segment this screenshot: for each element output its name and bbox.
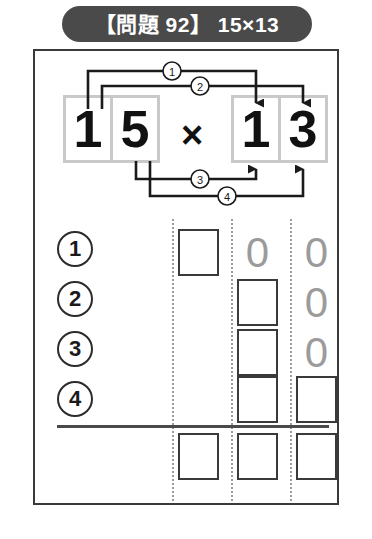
page-title: 【問題 92】 15×13 [95, 14, 280, 35]
row-marker-2-label: 2 [69, 288, 81, 310]
row-marker-3-label: 3 [69, 338, 81, 360]
column-divider-hundreds [172, 219, 174, 501]
row-marker-2: 2 [57, 281, 93, 317]
connector-line-2: 2 [102, 77, 303, 109]
connector-badge-2-label: 2 [197, 81, 203, 93]
ghost-zero-row3-col3: 0 [296, 329, 337, 376]
answer-box-row2-col2[interactable] [237, 279, 278, 326]
connector-badge-1-label: 1 [169, 66, 175, 78]
sum-box-col2[interactable] [237, 433, 278, 480]
answer-box-row4-col3[interactable] [296, 376, 337, 423]
connector-arrows: 1 2 3 4 [35, 51, 337, 216]
ghost-zero-row1-col3: 0 [296, 229, 337, 276]
sum-box-col1[interactable] [178, 433, 219, 480]
multiplication-expression-area: 1 5 × 1 3 [35, 51, 337, 216]
answer-grid: 1 2 3 4 0 0 0 0 [35, 219, 337, 505]
ghost-zero-row1-col2: 0 [237, 229, 278, 276]
column-divider-tens [231, 219, 233, 501]
answer-box-row1-col1[interactable] [178, 229, 219, 276]
answer-box-row4-col2[interactable] [237, 376, 278, 423]
row-marker-1: 1 [57, 231, 93, 267]
connector-line-4: 4 [150, 161, 303, 205]
connector-badge-3-label: 3 [197, 174, 203, 186]
ghost-zero-row2-col3: 0 [296, 279, 337, 326]
row-marker-4: 4 [57, 381, 93, 417]
sum-separator-line [57, 425, 329, 428]
connector-badge-4-label: 4 [224, 191, 230, 203]
connector-line-3: 3 [136, 161, 256, 188]
row-marker-1-label: 1 [69, 238, 81, 260]
row-marker-3: 3 [57, 331, 93, 367]
answer-box-row3-col2[interactable] [237, 329, 278, 376]
sum-box-col3[interactable] [296, 433, 337, 480]
worksheet-panel: 1 5 × 1 3 [33, 49, 339, 505]
column-divider-ones [290, 219, 292, 501]
title-banner: 【問題 92】 15×13 [62, 6, 312, 42]
row-marker-4-label: 4 [69, 388, 81, 410]
